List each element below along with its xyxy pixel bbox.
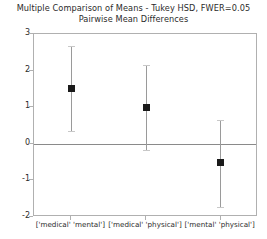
x-axis-tick-label: ['mental' 'physical'] <box>184 220 254 229</box>
y-axis-tick-mark <box>29 106 33 107</box>
chart-subtitle: Pairwise Mean Differences <box>0 14 267 25</box>
chart-title: Multiple Comparison of Means - Tukey HSD… <box>0 3 267 14</box>
y-axis-tick-mark <box>29 216 33 217</box>
x-axis-tick-label: ['medical' 'mental'] <box>36 220 105 229</box>
confidence-interval-cap-upper <box>143 65 150 66</box>
plot-area <box>33 33 257 216</box>
y-axis-tick-mark <box>29 179 33 180</box>
confidence-interval-cap-upper <box>68 46 75 47</box>
confidence-interval-cap-lower <box>217 207 224 208</box>
mean-difference-marker <box>217 159 224 166</box>
tukey-hsd-chart: Multiple Comparison of Means - Tukey HSD… <box>0 0 267 239</box>
y-axis-tick-mark <box>29 143 33 144</box>
confidence-interval-cap-lower <box>68 131 75 132</box>
y-axis-tick-mark <box>29 70 33 71</box>
mean-difference-marker <box>68 85 75 92</box>
mean-difference-marker <box>143 104 150 111</box>
confidence-interval-cap-lower <box>143 150 150 151</box>
chart-title-block: Multiple Comparison of Means - Tukey HSD… <box>0 3 267 25</box>
y-axis-tick-mark <box>29 33 33 34</box>
x-axis-tick-label: ['medical' 'physical'] <box>108 220 182 229</box>
confidence-interval-cap-upper <box>217 120 224 121</box>
